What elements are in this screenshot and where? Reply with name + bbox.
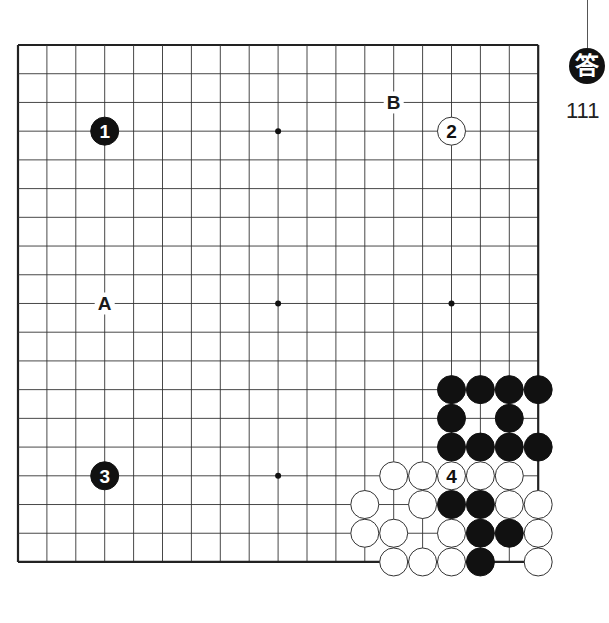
white-stone bbox=[524, 548, 552, 576]
black-stone bbox=[495, 376, 523, 404]
white-stone bbox=[495, 462, 523, 490]
white-stone bbox=[524, 491, 552, 519]
black-stone bbox=[495, 404, 523, 432]
white-stone bbox=[380, 548, 408, 576]
move-number: 4 bbox=[446, 466, 457, 487]
black-stone bbox=[466, 376, 494, 404]
white-stone bbox=[409, 548, 437, 576]
move-number: 1 bbox=[99, 121, 110, 142]
white-stone bbox=[380, 519, 408, 547]
white-stone bbox=[409, 462, 437, 490]
move-number: 3 bbox=[99, 466, 110, 487]
star-point bbox=[275, 128, 281, 134]
black-stone bbox=[466, 519, 494, 547]
black-stone bbox=[466, 491, 494, 519]
star-point bbox=[275, 473, 281, 479]
black-stone bbox=[524, 376, 552, 404]
white-stone bbox=[351, 491, 379, 519]
black-stone bbox=[438, 491, 466, 519]
point-label-a: A bbox=[98, 293, 112, 314]
black-stone bbox=[495, 519, 523, 547]
white-stone bbox=[438, 519, 466, 547]
white-stone bbox=[524, 519, 552, 547]
star-point bbox=[449, 300, 455, 306]
go-board: AB 1234 bbox=[0, 0, 609, 623]
black-stone bbox=[438, 433, 466, 461]
white-stone bbox=[351, 519, 379, 547]
black-stone bbox=[438, 404, 466, 432]
star-point bbox=[275, 300, 281, 306]
black-stone bbox=[466, 433, 494, 461]
black-stone bbox=[466, 548, 494, 576]
move-number: 2 bbox=[446, 121, 457, 142]
black-stone bbox=[524, 433, 552, 461]
white-stone bbox=[438, 548, 466, 576]
black-stone bbox=[495, 433, 523, 461]
white-stone bbox=[495, 491, 523, 519]
point-label-b: B bbox=[387, 92, 401, 113]
black-stone bbox=[438, 376, 466, 404]
white-stone bbox=[380, 462, 408, 490]
white-stone bbox=[466, 462, 494, 490]
white-stone bbox=[409, 491, 437, 519]
